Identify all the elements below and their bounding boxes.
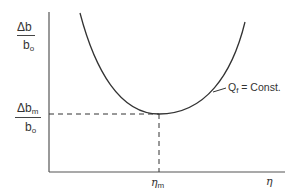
x-axis-label: η [266, 176, 273, 187]
delta-symbol: Δ [17, 101, 25, 115]
y-min-label-fraction-bar [15, 117, 41, 118]
curve-label: Qf = Const. [228, 82, 281, 95]
denominator-sub: o [30, 44, 34, 53]
y-axis-label-fraction-bar [17, 35, 35, 36]
denominator-var: b [23, 38, 30, 52]
q-symbol: Q [228, 81, 236, 93]
eta-symbol: η [151, 176, 158, 189]
y-axis-label-denominator: bo [23, 39, 34, 53]
curve-label-leader [213, 88, 226, 92]
delta-symbol: Δ [17, 20, 25, 34]
x-min-label: ηm [151, 177, 164, 190]
const-text: = Const. [238, 81, 280, 93]
denominator-var: b [25, 120, 32, 134]
eta-sub: m [158, 181, 165, 190]
q-const-curve [80, 13, 245, 114]
plot-svg [0, 0, 296, 194]
denominator-sub: o [32, 126, 36, 135]
y-min-label-numerator: Δbm [17, 102, 38, 116]
y-min-sub: m [32, 107, 39, 116]
y-axis-label-numerator: Δb [17, 21, 32, 33]
y-min-label-denominator: bo [25, 121, 36, 135]
y-var: b [25, 20, 32, 34]
diagram-canvas: Δb bo Δbm bo ηm η Qf = Const. [0, 0, 296, 194]
y-min-var: b [25, 101, 32, 115]
